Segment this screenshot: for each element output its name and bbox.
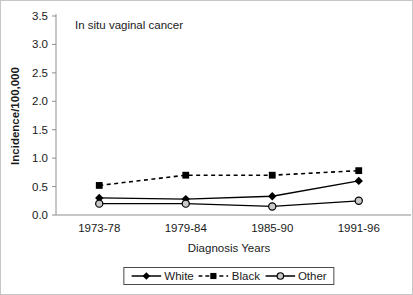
legend-sample-marker <box>277 273 283 279</box>
chart-figure: 0.00.51.01.52.02.53.03.51973-781979-8419… <box>0 0 413 295</box>
black-series-sample-icon <box>199 270 229 282</box>
legend-label-black: Black <box>232 270 260 282</box>
x-tick-label: 1985-90 <box>251 222 293 234</box>
y-tick-label: 1.0 <box>32 152 48 164</box>
other-series-sample-icon <box>265 270 295 282</box>
y-tick-label: 2.5 <box>32 67 48 79</box>
y-tick-label: 0.0 <box>32 209 48 221</box>
series-marker-other <box>355 197 362 204</box>
series-line-black <box>99 171 359 186</box>
legend-sample-marker <box>211 273 217 279</box>
white-series-sample-icon <box>131 270 161 282</box>
x-tick-label: 1979-84 <box>165 222 208 234</box>
x-tick-label: 1991-96 <box>338 222 380 234</box>
series-marker-black <box>96 182 103 189</box>
legend: White Black Other <box>123 267 334 285</box>
x-axis-title: Diagnosis Years <box>56 242 402 254</box>
series-marker-white <box>268 192 276 200</box>
series-marker-white <box>355 177 363 185</box>
series-marker-other <box>96 200 103 207</box>
legend-sample-marker <box>143 272 151 280</box>
chart-annotation: In situ vaginal cancer <box>75 19 183 31</box>
series-line-white <box>99 181 359 199</box>
y-tick-label: 3.0 <box>32 38 48 50</box>
y-tick-label: 0.5 <box>32 181 48 193</box>
legend-label-white: White <box>164 270 193 282</box>
y-axis-title: Incidence/100,000 <box>7 16 23 216</box>
legend-item-black: Black <box>199 270 260 282</box>
series-marker-black <box>355 167 362 174</box>
y-tick-label: 2.0 <box>32 95 48 107</box>
x-tick-label: 1973-78 <box>78 222 120 234</box>
legend-item-other: Other <box>265 270 327 282</box>
y-tick-label: 3.5 <box>32 10 48 22</box>
series-line-other <box>99 201 359 207</box>
legend-label-other: Other <box>298 270 327 282</box>
y-tick-label: 1.5 <box>32 124 48 136</box>
series-marker-other <box>269 203 276 210</box>
series-marker-other <box>182 200 189 207</box>
series-marker-black <box>269 172 276 179</box>
series-marker-black <box>182 172 189 179</box>
legend-item-white: White <box>131 270 193 282</box>
